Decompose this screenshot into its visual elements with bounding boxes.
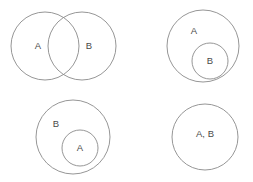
- circle-b: [36, 100, 110, 174]
- venn-diagram-figure: A B A B B A A, B: [0, 0, 253, 182]
- circle-b: [48, 12, 116, 80]
- label-b: B: [207, 55, 213, 66]
- label-ab: A, B: [196, 128, 214, 139]
- venn-diagram-canvas: A B A B B A A, B: [0, 0, 253, 182]
- label-a: A: [35, 40, 42, 51]
- label-a: A: [77, 142, 84, 153]
- panel-identical-sets: A, B: [172, 104, 238, 170]
- label-b: B: [86, 40, 92, 51]
- panel-overlapping-sets: A B: [11, 12, 116, 80]
- panel-a-subset-of-b: B A: [36, 100, 110, 174]
- circle-a: [167, 10, 239, 82]
- panel-b-subset-of-a: A B: [167, 10, 239, 82]
- circle-a: [11, 12, 79, 80]
- label-b: B: [53, 118, 59, 129]
- label-a: A: [191, 25, 198, 36]
